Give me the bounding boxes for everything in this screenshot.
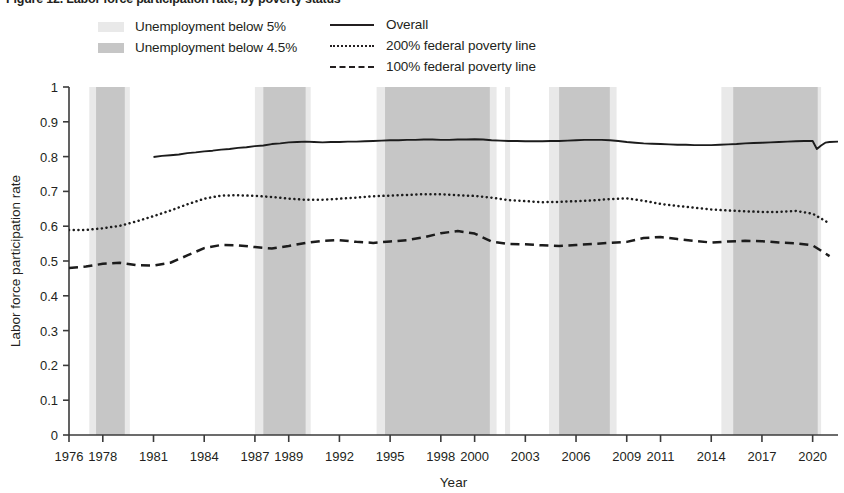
x-tick-label-11: 2006 — [562, 449, 591, 464]
x-tick-label-14: 2014 — [697, 449, 726, 464]
chart-plot-area: 00.10.20.30.40.50.60.70.80.9119761978198… — [0, 0, 844, 493]
y-tick-label-4: 0.4 — [40, 289, 58, 304]
shaded-band-below-4-5-4 — [733, 87, 818, 435]
y-tick-label-6: 0.6 — [40, 219, 58, 234]
shaded-band-below-4-5-0 — [96, 87, 125, 435]
x-tick-label-8: 1998 — [426, 449, 455, 464]
x-tick-label-0: 1976 — [55, 449, 84, 464]
x-tick-label-5: 1989 — [274, 449, 303, 464]
y-tick-label-8: 0.8 — [40, 150, 58, 165]
y-tick-label-7: 0.7 — [40, 184, 58, 199]
y-tick-label-0: 0 — [51, 428, 58, 443]
x-tick-label-6: 1992 — [325, 449, 354, 464]
chart-svg: 00.10.20.30.40.50.60.70.80.9119761978198… — [0, 0, 844, 493]
y-tick-label-2: 0.2 — [40, 358, 58, 373]
x-tick-label-4: 1987 — [240, 449, 269, 464]
x-tick-label-9: 2000 — [460, 449, 489, 464]
shaded-band-below-5-3 — [505, 87, 510, 435]
x-tick-label-3: 1984 — [190, 449, 219, 464]
y-axis-title: Labor force participation rate — [8, 175, 23, 347]
x-tick-label-13: 2011 — [647, 449, 675, 464]
x-axis-title: Year — [440, 475, 468, 490]
x-tick-label-15: 2017 — [747, 449, 776, 464]
y-tick-label-1: 0.1 — [40, 393, 58, 408]
x-tick-label-2: 1981 — [139, 449, 168, 464]
shaded-band-below-4-5-1 — [263, 87, 305, 435]
y-tick-label-10: 1 — [51, 80, 58, 95]
y-tick-label-9: 0.9 — [40, 115, 58, 130]
x-tick-label-7: 1995 — [376, 449, 405, 464]
x-tick-label-16: 2020 — [798, 449, 827, 464]
y-tick-label-3: 0.3 — [40, 324, 58, 339]
x-tick-label-10: 2003 — [511, 449, 540, 464]
x-tick-label-1: 1978 — [88, 449, 117, 464]
x-tick-label-12: 2009 — [612, 449, 641, 464]
y-tick-label-5: 0.5 — [40, 254, 58, 269]
